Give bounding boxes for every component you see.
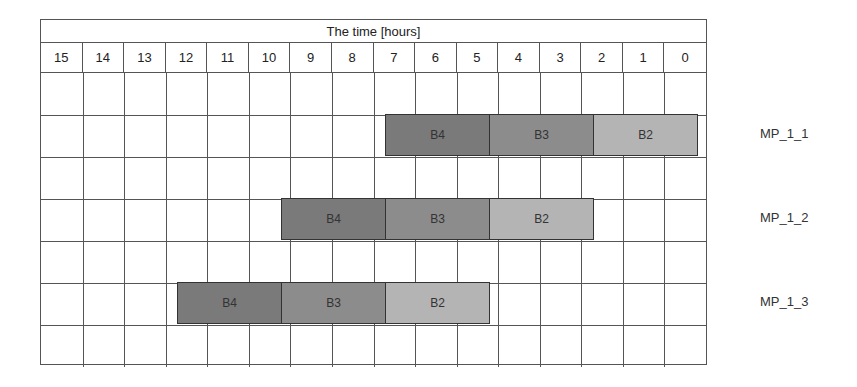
block-b2: B2 — [594, 114, 698, 156]
block-b3: B3 — [386, 198, 490, 240]
block-b3: B3 — [282, 282, 386, 324]
grid-hline — [41, 241, 706, 242]
grid-vline — [124, 73, 125, 367]
time-tick: 3 — [540, 43, 582, 73]
time-tick: 13 — [124, 43, 166, 73]
row-label-mp-1-1: MP_1_1 — [760, 126, 808, 141]
time-tick: 0 — [664, 43, 706, 73]
row-label-mp-1-3: MP_1_3 — [760, 294, 808, 309]
time-tick: 10 — [249, 43, 291, 73]
block-b4: B4 — [177, 282, 282, 324]
bar-mp-1-2: B4 B3 B2 — [281, 198, 594, 240]
time-tick: 8 — [332, 43, 374, 73]
grid-hline — [41, 157, 706, 158]
grid-vline — [166, 73, 167, 367]
time-tick: 15 — [41, 43, 83, 73]
time-tick: 14 — [83, 43, 125, 73]
time-tick: 9 — [290, 43, 332, 73]
block-b2: B2 — [386, 282, 490, 324]
row-label-mp-1-2: MP_1_2 — [760, 210, 808, 225]
bar-mp-1-3: B4 B3 B2 — [177, 282, 490, 324]
block-b2: B2 — [490, 198, 594, 240]
time-tick: 4 — [498, 43, 540, 73]
time-tick: 2 — [581, 43, 623, 73]
grid-hline — [41, 325, 706, 326]
grid-vline — [83, 73, 84, 367]
time-tick: 11 — [207, 43, 249, 73]
block-b4: B4 — [385, 114, 490, 156]
gantt-chart: The time [hours] 1514131211109876543210 … — [40, 19, 707, 365]
block-b4: B4 — [281, 198, 386, 240]
time-tick: 12 — [166, 43, 208, 73]
chart-title: The time [hours] — [41, 20, 706, 43]
time-tick: 1 — [623, 43, 665, 73]
time-tick: 6 — [415, 43, 457, 73]
time-tick: 7 — [374, 43, 416, 73]
time-tick: 5 — [457, 43, 499, 73]
bar-mp-1-1: B4 B3 B2 — [385, 114, 698, 156]
block-b3: B3 — [490, 114, 594, 156]
